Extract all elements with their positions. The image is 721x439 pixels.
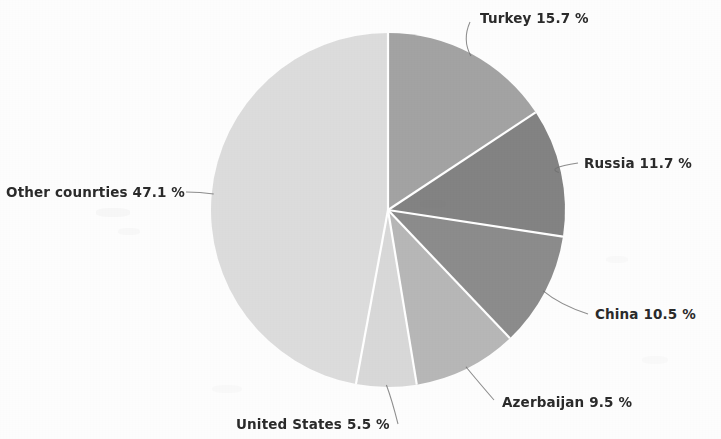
leader-line-other-countries	[186, 192, 214, 194]
slice-label-other-countries: Other counrties 47.1 %	[6, 186, 185, 200]
slice-label-russia: Russia 11.7 %	[584, 157, 692, 171]
leader-line-azerbaijan	[466, 367, 494, 400]
slice-label-azerbaijan: Azerbaijan 9.5 %	[502, 396, 632, 410]
leader-line-china	[543, 291, 588, 314]
pie-chart-canvas	[0, 0, 721, 439]
slice-label-china: China 10.5 %	[595, 308, 696, 322]
pie-chart: Turkey 15.7 % Russia 11.7 % China 10.5 %…	[0, 0, 721, 439]
slice-label-united-states: United States 5.5 %	[236, 418, 390, 432]
leader-line-turkey	[466, 22, 471, 56]
pie-slice-other-countries	[211, 33, 388, 384]
slice-label-turkey: Turkey 15.7 %	[480, 12, 589, 26]
